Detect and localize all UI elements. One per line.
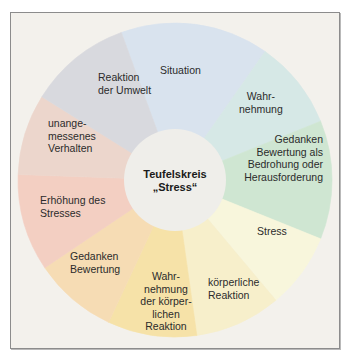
center-title: Teufelskreis „Stress“: [125, 168, 225, 194]
center-title-line1: Teufelskreis: [125, 168, 225, 181]
center-title-line2: „Stress“: [125, 181, 225, 194]
label-gedanken-bewertung: Gedanken Bewertung: [70, 250, 120, 275]
label-gedanken-bewertung-bedrohung: Gedanken Bewertung als Bedrohung oder He…: [244, 133, 323, 183]
label-reaktion-der-umwelt: Reaktion der Umwelt: [98, 71, 151, 96]
label-stress: Stress: [257, 225, 287, 238]
label-erhoehung-des-stresses: Erhöhung des Stresses: [40, 194, 105, 219]
label-wahrnehmung-koerperlichen-reaktion: Wahr- nehmung der körper- lichen Reaktio…: [134, 270, 198, 333]
label-koerperliche-reaktion: körperliche Reaktion: [208, 276, 259, 301]
label-situation: Situation: [160, 64, 201, 77]
label-wahrnehmung: Wahr- nehmung: [239, 90, 283, 115]
label-unangemessenes-verhalten: unange- messenes Verhalten: [48, 117, 96, 155]
